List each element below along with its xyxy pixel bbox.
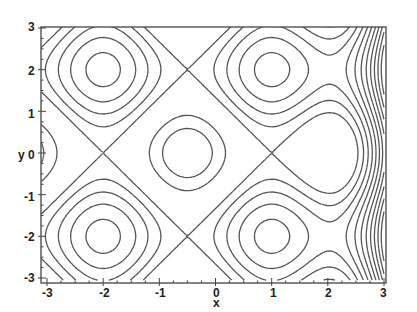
y-axis-label: y <box>18 148 25 162</box>
y-tick-neg3: -3 <box>24 271 35 285</box>
y-tick-1: 1 <box>28 107 35 121</box>
x-tick-2: 2 <box>325 286 332 300</box>
x-tick-3: 3 <box>380 286 387 300</box>
y-tick-0: 0 <box>28 148 35 162</box>
x-tick-neg1: -1 <box>155 286 166 300</box>
y-tick-3: 3 <box>28 20 35 34</box>
x-tick-1: 1 <box>270 286 277 300</box>
contour-lines <box>41 26 384 280</box>
plot-frame <box>41 27 386 283</box>
contour-path <box>41 26 384 280</box>
y-tick-neg2: -2 <box>24 230 35 244</box>
x-axis-label: x <box>213 296 220 310</box>
y-tick-2: 2 <box>28 64 35 78</box>
y-tick-neg1: -1 <box>24 190 35 204</box>
x-tick-neg2: -2 <box>99 286 110 300</box>
x-tick-neg3: -3 <box>42 286 53 300</box>
contour-plot <box>0 0 417 312</box>
